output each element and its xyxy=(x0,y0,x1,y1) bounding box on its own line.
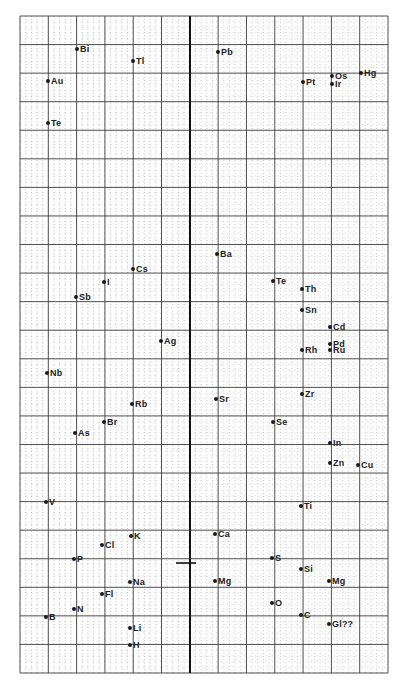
point-label: S xyxy=(275,553,281,563)
point-marker-icon xyxy=(214,397,218,401)
data-point-te: Te xyxy=(271,276,286,286)
point-marker-icon xyxy=(270,601,274,605)
point-marker-icon xyxy=(299,567,303,571)
point-label: Na xyxy=(133,577,145,587)
data-point-fl: Fl xyxy=(100,589,113,599)
point-label: Te xyxy=(51,118,61,128)
point-marker-icon xyxy=(44,500,48,504)
point-marker-icon xyxy=(215,252,219,256)
point-marker-icon xyxy=(327,579,331,583)
data-point-zn: Zn xyxy=(328,458,344,468)
point-marker-icon xyxy=(46,121,50,125)
point-marker-icon xyxy=(328,325,332,329)
point-label: Ru xyxy=(333,345,345,355)
point-marker-icon xyxy=(128,580,132,584)
point-label: B xyxy=(49,612,56,622)
point-marker-icon xyxy=(301,80,305,84)
point-marker-icon xyxy=(46,79,50,83)
point-label: Rh xyxy=(305,345,317,355)
point-label: Ti xyxy=(304,501,312,511)
point-label: Ba xyxy=(220,249,232,259)
point-marker-icon xyxy=(328,348,332,352)
data-point-cu: Cu xyxy=(356,460,373,470)
point-marker-icon xyxy=(359,71,363,75)
point-label: Si xyxy=(304,564,313,574)
point-label: Ca xyxy=(218,529,230,539)
point-label: Br xyxy=(107,417,117,427)
point-label: Cl xyxy=(105,540,114,550)
point-label: Ir xyxy=(335,79,341,89)
point-marker-icon xyxy=(213,532,217,536)
data-point-bi: Bi xyxy=(75,44,89,54)
point-marker-icon xyxy=(130,402,134,406)
point-label: Tl xyxy=(136,56,144,66)
point-marker-icon xyxy=(45,371,49,375)
point-marker-icon xyxy=(213,579,217,583)
data-point-ti: Ti xyxy=(299,501,312,511)
point-label: Zn xyxy=(333,458,344,468)
data-point-i: I xyxy=(102,277,110,287)
point-marker-icon xyxy=(128,626,132,630)
point-marker-icon xyxy=(102,280,106,284)
data-point-mg: Mg xyxy=(213,576,231,586)
point-marker-icon xyxy=(300,287,304,291)
data-point-li: Li xyxy=(128,623,141,633)
data-point-se: Se xyxy=(271,417,287,427)
point-marker-icon xyxy=(128,643,132,647)
data-point-cs: Cs xyxy=(131,264,148,274)
point-marker-icon xyxy=(330,82,334,86)
data-point-gl: Gl?? xyxy=(327,619,353,629)
data-point-b: B xyxy=(44,612,56,622)
point-marker-icon xyxy=(271,420,275,424)
point-label: Mg xyxy=(332,576,345,586)
data-point-ag: Ag xyxy=(159,336,176,346)
point-label: Hg xyxy=(364,68,376,78)
data-point-o: O xyxy=(270,598,282,608)
data-point-in: In xyxy=(328,438,341,448)
point-label: Se xyxy=(276,417,287,427)
data-point-sr: Sr xyxy=(214,394,229,404)
point-marker-icon xyxy=(300,392,304,396)
point-label: Cd xyxy=(333,322,345,332)
point-label: Nb xyxy=(50,368,62,378)
point-label: Bi xyxy=(80,44,89,54)
data-point-v: V xyxy=(44,497,55,507)
point-label: Pb xyxy=(221,47,233,57)
data-point-sn: Sn xyxy=(300,305,317,315)
data-point-br: Br xyxy=(102,417,117,427)
data-point-h: H xyxy=(128,640,140,650)
point-marker-icon xyxy=(159,339,163,343)
point-label: Cu xyxy=(361,460,373,470)
data-point-th: Th xyxy=(300,284,316,294)
point-label: Te xyxy=(276,276,286,286)
data-point-ca: Ca xyxy=(213,529,230,539)
data-point-mg: Mg xyxy=(327,576,345,586)
data-point-na: Na xyxy=(128,577,145,587)
point-label: C xyxy=(304,610,311,620)
point-label: Sr xyxy=(219,394,229,404)
data-point-si: Si xyxy=(299,564,313,574)
data-point-c: C xyxy=(299,610,311,620)
data-point-te: Te xyxy=(46,118,61,128)
point-label: Sb xyxy=(79,292,91,302)
point-marker-icon xyxy=(299,504,303,508)
point-label: Th xyxy=(305,284,316,294)
point-label: H xyxy=(133,640,140,650)
data-point-cl: Cl xyxy=(100,540,114,550)
point-label: Rb xyxy=(135,399,147,409)
point-marker-icon xyxy=(100,592,104,596)
point-label: Li xyxy=(133,623,141,633)
point-label: Fl xyxy=(105,589,113,599)
point-label: In xyxy=(333,438,341,448)
data-point-rb: Rb xyxy=(130,399,147,409)
data-point-nb: Nb xyxy=(45,368,62,378)
point-label: I xyxy=(107,277,110,287)
point-label: Gl?? xyxy=(332,619,353,629)
data-point-pb: Pb xyxy=(216,47,233,57)
point-marker-icon xyxy=(356,463,360,467)
point-marker-icon xyxy=(131,267,135,271)
point-marker-icon xyxy=(330,74,334,78)
point-label: Au xyxy=(51,76,63,86)
data-point-ru: Ru xyxy=(328,345,345,355)
point-marker-icon xyxy=(328,441,332,445)
